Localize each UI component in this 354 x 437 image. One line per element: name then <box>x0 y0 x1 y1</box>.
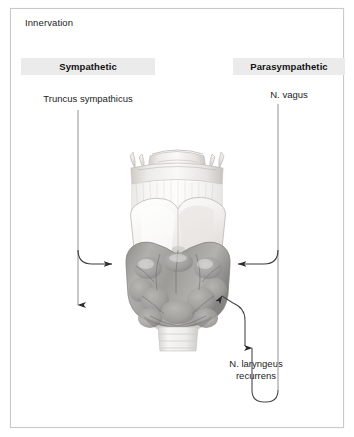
sympathetic-heading-band: Sympathetic <box>21 58 155 75</box>
truncus-sympathicus-label: Truncus sympathicus <box>21 93 155 104</box>
nervus-laryngeus-recurrens-label: N. laryngeus recurrens <box>205 358 307 382</box>
parasympathetic-heading-label: Parasympathetic <box>250 61 328 72</box>
recurrens-label-line-2: recurrens <box>205 370 307 382</box>
sympathetic-heading-label: Sympathetic <box>59 61 117 72</box>
recurrens-label-line-1: N. laryngeus <box>205 358 307 370</box>
screenshot-root: Innervation Sympathetic Parasympathetic … <box>0 0 354 437</box>
page-title: Innervation <box>25 17 73 28</box>
parasympathetic-heading-band: Parasympathetic <box>233 58 345 75</box>
innervation-card: Innervation Sympathetic Parasympathetic … <box>10 8 344 428</box>
nervus-vagus-label: N. vagus <box>233 89 345 100</box>
